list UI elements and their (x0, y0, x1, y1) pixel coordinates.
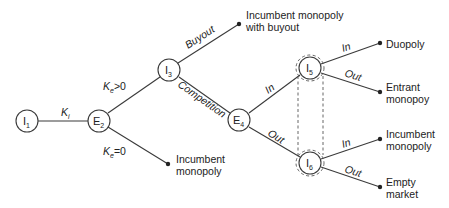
edge-label-competition: Competition (176, 78, 229, 120)
edge-label-Ki: Ki (61, 106, 70, 120)
edge-label-Ke-positive: Ke>0 (103, 80, 126, 94)
game-tree-diagram: I1 E2 I3 E4 I5 I6 Ki Ke>0 Ke=0 Buyout Co… (0, 0, 449, 208)
edge-label-buyout: Buyout (183, 22, 218, 50)
outcome-incumbent-monopoly-1: Incumbent monopoly (176, 153, 228, 177)
node-E2: E2 (88, 110, 110, 132)
terminal-dot-incumbent-monopoly-2 (378, 137, 382, 141)
terminal-dot-entrant-monopoly (378, 90, 382, 94)
outcome-buyout: Incumbent monopoly with buyout (245, 9, 346, 33)
edge-label-I6-out: Out (343, 162, 364, 179)
edge-label-Ke-zero: Ke=0 (103, 145, 126, 159)
terminal-dot-empty-market (378, 185, 382, 189)
node-I6: I6 (299, 152, 321, 174)
node-I1: I1 (16, 110, 38, 132)
outcome-duopoly: Duopoly (386, 38, 425, 50)
outcome-empty-market: Empty market (386, 176, 419, 200)
edge-label-I5-in: In (340, 40, 352, 54)
edge-label-E4-in: In (262, 81, 276, 96)
outcome-entrant-monopoly: Entrant monopoy (386, 81, 430, 105)
edge-I5-duopoly (321, 43, 380, 64)
terminal-dot-duopoly (378, 41, 382, 45)
edge-I6-incumbent-monopoly (321, 139, 380, 159)
node-I3: I3 (158, 59, 180, 81)
edge-label-E4-out: Out (266, 127, 288, 147)
terminal-dot-incumbent-monopoly-1 (166, 162, 170, 166)
outcome-incumbent-monopoly-2: Incumbent monopoly (386, 128, 438, 152)
edge-label-I6-in: In (340, 136, 352, 150)
edge-E4-I5 (249, 75, 300, 113)
node-I5: I5 (299, 57, 321, 79)
node-E4: E4 (228, 109, 250, 131)
terminal-dot-buyout (237, 22, 241, 26)
